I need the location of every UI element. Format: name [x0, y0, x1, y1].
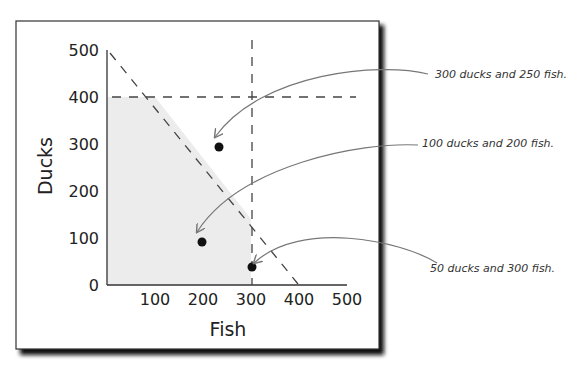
x-tick: 500: [332, 290, 363, 309]
x-tick: 100: [140, 290, 171, 309]
y-axis-title: Ducks: [34, 137, 56, 195]
chart: 500 400 300 200 100 0 100 200 300 400 50…: [0, 0, 583, 371]
y-tick: 0: [89, 276, 99, 295]
y-tick: 500: [68, 41, 99, 60]
annotation-label-2: 100 ducks and 200 fish.: [422, 137, 554, 150]
x-tick: 300: [236, 290, 267, 309]
data-point-50-ducks-300-fish: [248, 263, 257, 272]
y-tick: 400: [68, 88, 99, 107]
y-tick: 200: [68, 182, 99, 201]
data-point-300-ducks-250-fish: [215, 143, 224, 152]
x-tick: 400: [284, 290, 315, 309]
x-axis-title: Fish: [210, 318, 247, 340]
y-tick: 100: [68, 229, 99, 248]
y-tick: 300: [68, 135, 99, 154]
annotation-label-1: 300 ducks and 250 fish.: [435, 68, 567, 81]
x-tick: 200: [188, 290, 219, 309]
annotation-label-3: 50 ducks and 300 fish.: [430, 262, 555, 275]
data-point-100-ducks-200-fish: [198, 238, 207, 247]
